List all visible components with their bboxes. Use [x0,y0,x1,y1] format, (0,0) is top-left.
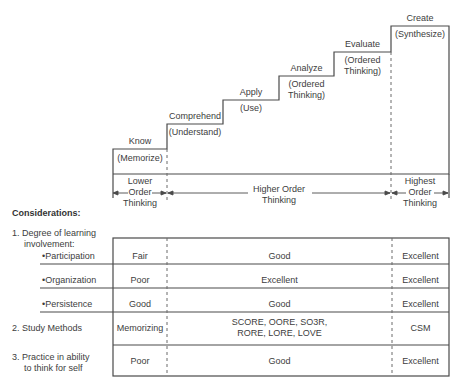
range-highest-line2: Order [391,187,449,198]
step-create-label: Create [391,13,449,24]
range-lower-line1: Lower [113,176,167,187]
study-methods-highest: CSM [392,323,449,334]
row-learning-involvement-label2: involvement: [24,239,75,250]
participation-higher: Good [167,251,392,262]
step-evaluate-desc2: Thinking) [334,66,391,77]
range-lower-line3: Thinking [113,198,167,209]
range-highest-line3: Thinking [391,198,449,209]
study-methods-higher: SCORE, OORE, SO3R, [167,317,392,328]
persistence-highest: Excellent [392,299,449,310]
step-apply-label: Apply [223,87,279,98]
row-practice-label: 3. Practice in ability [12,352,90,363]
range-higher-line2: Thinking [167,195,391,206]
practice-higher: Good [167,356,392,367]
step-evaluate-label: Evaluate [334,39,391,50]
persistence-lower: Good [113,299,167,310]
step-comprehend-label: Comprehend [167,111,223,122]
participation-highest: Excellent [392,251,449,262]
range-higher-line1: Higher Order [167,184,391,195]
row-practice-label2: to think for self [24,363,83,374]
organization-higher: Excellent [167,275,392,286]
step-know-label: Know [113,136,167,147]
persistence-higher: Good [167,299,392,310]
step-comprehend-desc: (Understand) [167,127,223,138]
step-know-desc: (Memorize) [113,153,167,164]
step-apply-desc: (Use) [223,103,279,114]
range-highest-line1: Highest [391,176,449,187]
study-methods-higher2: RORE, LORE, LOVE [167,328,392,339]
step-analyze-desc: (Ordered [279,79,334,90]
study-methods-lower: Memorizing [113,323,167,334]
step-analyze-label: Analyze [279,63,334,74]
practice-lower: Poor [113,356,167,367]
range-lower-line2: Order [113,187,167,198]
considerations-title: Considerations: [12,208,81,219]
row-persistence-label: •Persistence [42,299,92,310]
step-analyze-desc2: Thinking) [279,90,334,101]
organization-lower: Poor [113,275,167,286]
row-organization-label: •Organization [42,275,96,286]
step-evaluate-desc: (Ordered [334,55,391,66]
step-create-desc: (Synthesize) [391,29,449,40]
participation-lower: Fair [113,251,167,262]
row-study-methods-label: 2. Study Methods [12,323,82,334]
organization-highest: Excellent [392,275,449,286]
practice-highest: Excellent [392,356,449,367]
row-learning-involvement-label: 1. Degree of learning [12,228,96,239]
row-participation-label: •Participation [42,251,95,262]
